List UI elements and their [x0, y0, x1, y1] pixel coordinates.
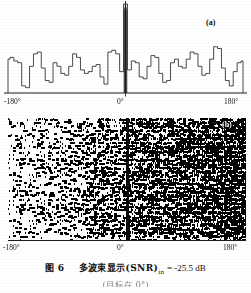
- panel-a-axis-ticks: -180° 0° 180°: [0, 97, 251, 111]
- waterfall-noise-field: [8, 118, 246, 240]
- axis-a-tick-left: -180°: [4, 97, 21, 106]
- axis-b-tick-left: -180°: [3, 243, 20, 252]
- panel-a-beam-pattern-plot: [0, 0, 251, 100]
- panel-b-label: (b): [222, 120, 232, 129]
- axis-a-tick-center: 0°: [117, 97, 124, 106]
- panel-b-axis-line: [8, 240, 246, 241]
- caption-number: 图 6: [45, 263, 64, 273]
- caption-value: = -25.5 dB: [167, 263, 206, 273]
- axis-b-tick-right: 180°: [223, 243, 237, 252]
- panel-b-waterfall-display: [8, 118, 246, 240]
- figure-caption-line2: (目标在 0°): [0, 278, 251, 287]
- axis-b-tick-center: 0°: [117, 243, 124, 252]
- caption-text: 多波束显示(SNR): [79, 263, 159, 273]
- panel-b-axis-ticks: -180° 0° 180°: [0, 243, 251, 257]
- axis-a-tick-right: 180°: [224, 97, 238, 106]
- panel-a-target-spike: [124, 1, 127, 93]
- panel-a-label: (a): [206, 18, 215, 27]
- beam-pattern-step-curve: [0, 0, 251, 100]
- figure-container: (a) -180° 0° 180° (b) -180° 0° 180° 图 6 …: [0, 0, 251, 293]
- figure-caption: 图 6 多波束显示(SNR)in = -25.5 dB: [0, 262, 251, 278]
